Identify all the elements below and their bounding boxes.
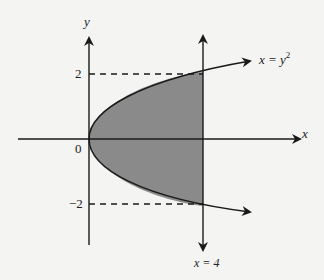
- figure: y x 0 2 −2 x = y2 x = 4: [0, 0, 324, 280]
- tick-label-2: 2: [75, 66, 82, 81]
- x-axis-label: x: [301, 126, 308, 141]
- curve-label: x = y2: [258, 50, 290, 67]
- tick-label-minus-2: −2: [69, 196, 83, 211]
- y-axis-label: y: [82, 14, 90, 29]
- origin-label: 0: [75, 141, 82, 156]
- parabola-region-diagram: y x 0 2 −2 x = y2 x = 4: [0, 0, 324, 280]
- line-label: x = 4: [193, 256, 219, 270]
